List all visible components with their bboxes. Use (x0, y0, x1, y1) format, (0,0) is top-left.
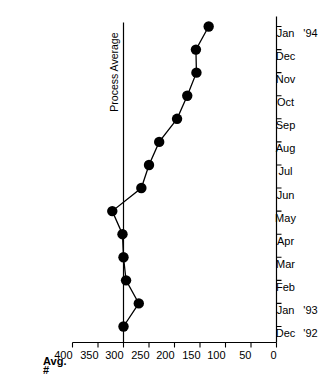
data-point (182, 90, 192, 100)
series-markers (107, 21, 214, 331)
data-point (118, 252, 128, 262)
month-tick-label: Aug (275, 141, 295, 153)
data-point (120, 275, 130, 285)
month-tick-label: Sep (275, 118, 295, 130)
value-tick-label: 150 (181, 348, 199, 360)
axis-lines (72, 16, 276, 342)
month-tick-label: Feb (276, 280, 295, 292)
data-point (171, 113, 181, 123)
month-tick-label: Jan (276, 303, 294, 315)
year-tick-label: '93 (303, 303, 317, 315)
value-axis-title: Avg.# (43, 356, 66, 374)
data-point (118, 321, 128, 331)
month-tick-label: Jun (276, 188, 294, 200)
data-point (203, 21, 213, 31)
month-tick-label: Apr (276, 234, 293, 246)
value-tick-label: 250 (130, 348, 148, 360)
month-tick-label: Nov (275, 72, 295, 84)
month-tick-label: Oct (276, 95, 293, 107)
value-tick-label: 50 (238, 348, 250, 360)
rotated-chart-canvas: 400350300250200150100500 Dec'92Jan'93Feb… (0, 0, 331, 388)
data-point (154, 136, 164, 146)
value-tick-label: 350 (79, 348, 97, 360)
month-tick-label: Jul (278, 164, 292, 176)
month-tick-label: Jan (276, 26, 294, 38)
value-tick-label: 0 (270, 348, 276, 360)
year-tick-label: '92 (303, 326, 317, 338)
value-tick-label: 300 (105, 348, 123, 360)
data-point (117, 228, 127, 238)
data-point (136, 182, 146, 192)
data-point (190, 44, 200, 54)
year-tick-label: '94 (303, 26, 317, 38)
data-point (191, 67, 201, 77)
value-tick-label: 100 (207, 348, 225, 360)
month-tick-label: Mar (276, 257, 295, 269)
month-tick-label: May (275, 211, 296, 223)
chart-figure: 400350300250200150100500 Dec'92Jan'93Feb… (0, 0, 331, 388)
data-point (107, 205, 117, 215)
month-tick-label: Dec (275, 49, 295, 61)
month-tick-label: Dec (275, 326, 295, 338)
process-average-label: Process Average (107, 32, 119, 111)
value-tick-label: 200 (156, 348, 174, 360)
data-point (143, 159, 153, 169)
data-point (133, 298, 143, 308)
